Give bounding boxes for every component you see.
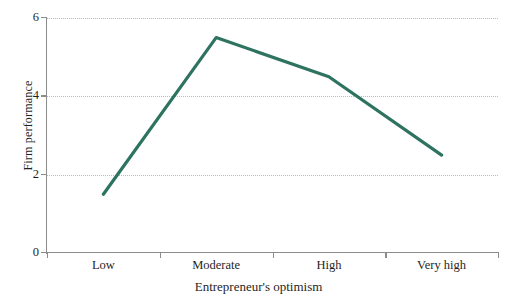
- y-tick-label-0: 0: [13, 246, 39, 259]
- x-tick-mark-3: [385, 253, 386, 258]
- x-tick-label-low: Low: [92, 259, 115, 273]
- gridline-6: [47, 18, 498, 19]
- x-tick-mark-1: [160, 253, 161, 258]
- x-tick-label-very-high: Very high: [417, 259, 466, 273]
- plot-area: [47, 18, 498, 253]
- gridline-2: [47, 175, 498, 176]
- x-tick-label-moderate: Moderate: [192, 259, 240, 273]
- x-tick-mark-0: [47, 253, 48, 258]
- y-tick-mark-6: [41, 17, 46, 18]
- x-axis-title: Entrepreneur's optimism: [0, 279, 517, 295]
- y-axis-line: [46, 17, 47, 254]
- y-axis-title: Firm performance: [21, 46, 36, 206]
- x-tick-mark-2: [273, 253, 274, 258]
- y-tick-label-6: 6: [13, 11, 39, 24]
- gridline-4: [47, 96, 498, 97]
- x-tick-mark-4: [498, 253, 499, 258]
- y-tick-mark-4: [41, 95, 46, 96]
- line-chart-figure: 6 4 2 0 Low Moderate High Very high Firm…: [0, 0, 517, 302]
- y-tick-mark-2: [41, 174, 46, 175]
- x-tick-label-high: High: [316, 259, 341, 273]
- y-tick-mark-0: [41, 252, 46, 253]
